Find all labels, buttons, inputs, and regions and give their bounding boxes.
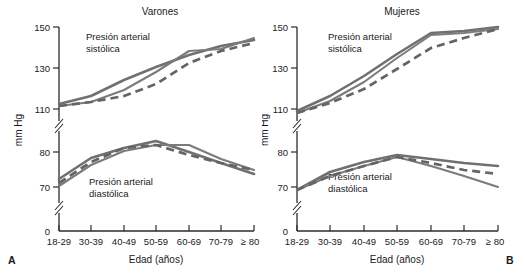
x-tick-label-18-29: 18-29 [285,236,309,247]
y-tick-label-150: 150 [272,22,288,33]
y-tick-label-110: 110 [35,104,50,115]
y-axis-title: mm Hg [13,114,24,146]
annotation-diastolic-line2: diastólica [328,183,368,194]
axis-break-lower [293,201,301,215]
y-tick-label-130: 130 [272,63,288,74]
panel-letter-b: B [506,254,514,266]
x-axis-title: Edad (años) [129,254,183,265]
y-tick-label-150: 150 [34,22,50,33]
chart-mujeres: Mujeres 150 130 110 80 70 0 mm Hg [262,0,525,273]
x-tick-label-40-49: 40-49 [352,236,376,247]
panel-mujeres: Mujeres 150 130 110 80 70 0 mm Hg [262,0,524,273]
x-tick-label-60-69: 60-69 [177,236,201,247]
panel-title-varones: Varones [142,6,179,17]
annotation-systolic-line2: sistólica [328,43,363,54]
y-tick-label-70: 70 [277,182,288,193]
annotation-systolic-line1: Presión arterial [86,31,150,42]
annotation-systolic-line2: sistólica [86,43,121,54]
y-tick-label-130: 130 [34,63,50,74]
x-tick-label-30-39: 30-39 [79,236,103,247]
x-tick-label-18-29: 18-29 [47,236,71,247]
y-tick-label-110: 110 [273,104,288,115]
x-tick-label-50-59: 50-59 [144,236,168,247]
x-tick-label-50-59: 50-59 [385,236,409,247]
annotation-diastolic-line1: Presión arterial [89,176,153,187]
x-tick-label-70-79: 70-79 [452,236,476,247]
blood-pressure-figure: Varones 150 130 110 80 70 0 mm Hg [0,0,525,273]
y-tick-label-80: 80 [277,147,288,158]
annotation-systolic-line1: Presión arterial [328,31,392,42]
x-tick-label-80-plus: ≥ 80 [241,236,259,247]
x-tick-label-70-79: 70-79 [209,236,233,247]
panel-letter-a: A [8,254,16,266]
x-tick-label-80-plus: ≥ 80 [486,236,504,247]
x-tick-label-40-49: 40-49 [112,236,136,247]
annotation-diastolic-line2: diastólica [89,188,129,199]
x-tick-label-60-69: 60-69 [419,236,443,247]
axis-break-upper [293,119,301,133]
x-tick-label-30-39: 30-39 [318,236,342,247]
y-axis-title: mm Hg [262,114,270,146]
chart-varones: Varones 150 130 110 80 70 0 mm Hg [0,0,262,273]
y-tick-label-80: 80 [39,147,50,158]
x-axis-title: Edad (años) [370,254,424,265]
axis-break-upper [55,119,63,133]
y-tick-label-70: 70 [39,182,50,193]
axis-break-lower [55,201,63,215]
panel-varones: Varones 150 130 110 80 70 0 mm Hg [0,0,262,273]
panel-title-mujeres: Mujeres [384,6,420,17]
